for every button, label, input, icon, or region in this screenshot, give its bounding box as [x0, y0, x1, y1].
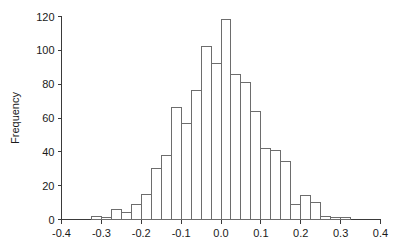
chart-canvas: 020406080100120-0.4-0.3-0.2-0.10.00.10.2… [0, 0, 399, 250]
y-tick-label: 20 [42, 180, 54, 192]
x-tick-label: -0.4 [52, 227, 71, 239]
histogram-bar [341, 218, 351, 220]
x-tick-label: 0.3 [333, 227, 348, 239]
histogram-bar [231, 74, 241, 219]
y-tick-label: 100 [36, 44, 54, 56]
y-tick-label: 120 [36, 11, 54, 23]
histogram-bar [191, 91, 201, 220]
x-tick-label: -0.3 [92, 227, 111, 239]
histogram-bar [261, 148, 271, 219]
histogram-bar [281, 162, 291, 220]
x-tick-label: 0.4 [373, 227, 388, 239]
histogram-bar [221, 20, 231, 220]
histogram-bar [101, 218, 111, 220]
x-tick-label: -0.2 [132, 227, 151, 239]
histogram-bar [91, 216, 101, 219]
histogram-bar [241, 82, 251, 219]
histogram-bar [161, 155, 171, 219]
x-axis-ticks: -0.4-0.3-0.2-0.10.00.10.20.30.4 [52, 220, 388, 239]
y-axis-title: Frequency [9, 92, 21, 144]
histogram-bar [111, 209, 121, 219]
histogram-bar [311, 203, 321, 220]
histogram-bars [91, 20, 350, 220]
histogram-chart: 020406080100120-0.4-0.3-0.2-0.10.00.10.2… [0, 0, 399, 250]
histogram-bar [251, 111, 261, 219]
y-axis-ticks: 020406080100120 [36, 11, 61, 226]
y-tick-label: 40 [42, 146, 54, 158]
y-tick-label: 60 [42, 112, 54, 124]
histogram-bar [321, 216, 331, 219]
histogram-bar [201, 47, 211, 220]
histogram-bar [151, 169, 161, 220]
histogram-bar [121, 213, 131, 220]
histogram-bar [131, 204, 141, 219]
histogram-bar [301, 196, 311, 220]
y-tick-label: 0 [48, 214, 54, 226]
histogram-bar [291, 204, 301, 219]
x-tick-label: 0.1 [253, 227, 268, 239]
x-tick-label: 0.0 [213, 227, 228, 239]
histogram-bar [171, 108, 181, 220]
histogram-bar [271, 150, 281, 219]
histogram-bar [331, 218, 341, 220]
x-tick-label: -0.1 [172, 227, 191, 239]
y-tick-label: 80 [42, 78, 54, 90]
histogram-bar [211, 64, 221, 220]
histogram-bar [141, 194, 151, 219]
x-tick-label: 0.2 [293, 227, 308, 239]
histogram-bar [181, 123, 191, 219]
